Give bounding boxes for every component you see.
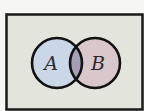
set-b-label: B [90,52,105,74]
venn-diagram: A B [0,0,144,111]
set-a-label: A [42,52,58,74]
